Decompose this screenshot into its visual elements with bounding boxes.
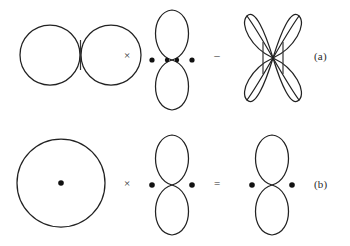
equation-row-b: × = (b) bbox=[0, 123, 350, 246]
operator-multiply-b: × bbox=[118, 178, 136, 189]
equation-row-a: × – bbox=[0, 0, 350, 123]
figure-root: × – bbox=[0, 0, 350, 246]
diagram-four-petal-rosette bbox=[228, 0, 318, 123]
row-label-a: (a) bbox=[314, 50, 327, 62]
operator-minus-a: – bbox=[208, 50, 226, 61]
diagram-figure-eight-left bbox=[138, 123, 216, 246]
diagram-figure-eight-four-dots bbox=[138, 0, 216, 123]
diagram-two-tangent-circles bbox=[8, 0, 123, 123]
operator-equals-b: = bbox=[208, 178, 226, 189]
operator-multiply-a: × bbox=[118, 50, 136, 61]
diagram-figure-eight-right bbox=[238, 123, 316, 246]
row-label-b: (b) bbox=[314, 178, 327, 190]
diagram-circle-with-center-dot bbox=[8, 123, 123, 246]
